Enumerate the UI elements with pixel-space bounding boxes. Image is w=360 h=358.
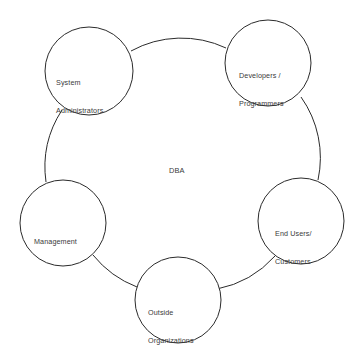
node-label-line: Organizations xyxy=(148,336,194,345)
node-label-line: Outside xyxy=(148,308,194,317)
connector-arc xyxy=(301,97,320,180)
connector-arc xyxy=(131,38,226,51)
diagram-canvas: System Administrators Developers / Progr… xyxy=(0,0,360,358)
node-label-management: Management xyxy=(34,218,77,284)
node-label-developers-programmers: Developers / Programmers xyxy=(239,52,284,127)
connector-arc xyxy=(93,255,137,287)
node-label-line: Management xyxy=(34,237,77,246)
node-label-line: System xyxy=(56,78,103,87)
node-label-line: Customers xyxy=(275,257,312,266)
connector-arc xyxy=(217,256,275,289)
center-label-dba: DBA xyxy=(169,166,185,175)
node-label-system-administrators: System Administrators xyxy=(56,59,103,134)
node-label-line: Programmers xyxy=(239,99,284,108)
node-label-line: Administrators xyxy=(56,106,103,115)
node-label-line: Developers / xyxy=(239,71,284,80)
node-label-line: End Users/ xyxy=(275,229,312,238)
node-label-end-users-customers: End Users/ Customers xyxy=(275,210,312,285)
node-label-outside-organizations: Outside Organizations xyxy=(148,289,194,358)
